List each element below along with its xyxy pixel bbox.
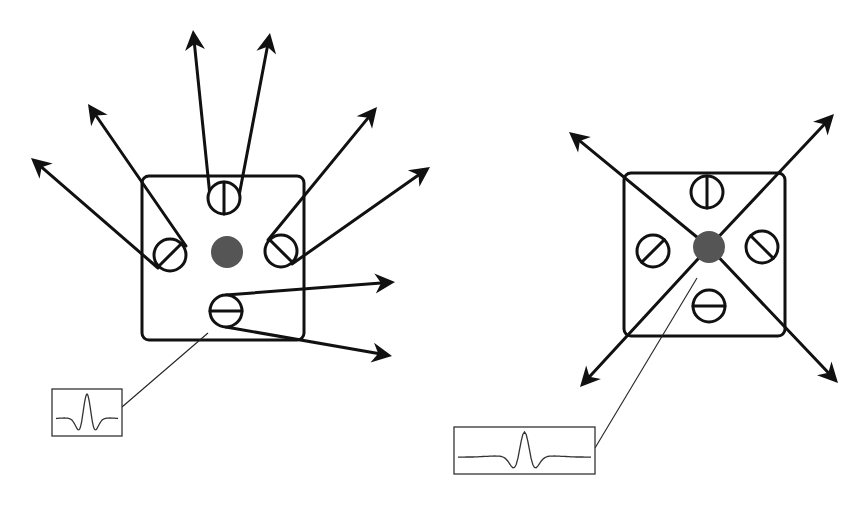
receptive-cell-bottom: [693, 290, 725, 322]
right-center-dot: [693, 231, 725, 263]
right-arrow-1: [569, 132, 709, 247]
right-arrow-4: [709, 247, 838, 383]
receptive-cell-left: [637, 235, 669, 267]
left-arrow-5: [268, 107, 377, 240]
left-arrow-3: [31, 158, 158, 268]
right-waveform-inset: [454, 427, 595, 474]
left-arrow-1: [185, 30, 210, 196]
receptive-field-figure: [0, 0, 862, 506]
right-pointer-line: [595, 278, 697, 448]
right-diagram-center-neuron: [454, 114, 838, 474]
right-arrow-2: [709, 114, 834, 247]
left-pointer-line: [122, 333, 208, 407]
left-waveform-inset: [52, 389, 122, 436]
arrowhead-icon: [408, 167, 430, 187]
left-arrow-8: [226, 327, 392, 362]
left-arrow-7: [226, 274, 395, 295]
receptive-cell-bottom: [210, 295, 242, 327]
left-arrow-2: [239, 33, 276, 196]
receptive-cell-top: [208, 182, 240, 214]
receptive-cell-left: [154, 239, 186, 271]
receptive-cell-right: [265, 235, 297, 267]
receptive-cell-right: [746, 231, 778, 263]
arrowhead-icon: [88, 104, 108, 126]
receptive-cell-top: [691, 176, 723, 208]
left-center-dot: [211, 236, 243, 268]
left-diagram-directional-neurons: [31, 30, 430, 436]
left-arrow-6: [292, 167, 430, 264]
